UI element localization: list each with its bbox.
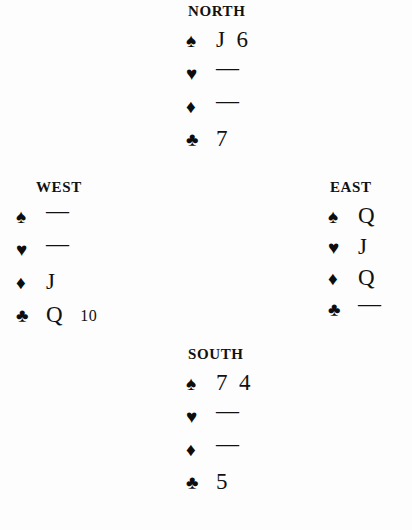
club-icon: ♣ — [328, 300, 358, 319]
heart-icon: ♥ — [16, 240, 46, 259]
ranks-south-diamonds: — — [216, 437, 240, 460]
diamond-icon: ♦ — [16, 273, 46, 292]
ranks-north-clubs: 7 — [216, 127, 228, 150]
card-rank: J — [358, 235, 367, 258]
ranks-south-clubs: 5 — [216, 470, 228, 493]
card-rank: 6 — [236, 28, 248, 51]
ranks-north-diamonds: — — [216, 94, 240, 117]
hand-south: SOUTH ♠ 74 ♥ — ♦ — ♣ 5 — [186, 347, 251, 503]
club-icon: ♣ — [186, 473, 216, 492]
void-marker: — — [216, 399, 240, 422]
suit-row-south-clubs: ♣ 5 — [186, 470, 251, 503]
ranks-north-hearts: — — [216, 61, 240, 84]
suit-row-west-clubs: ♣ Q10 — [16, 303, 97, 336]
hand-label-east: EAST — [330, 180, 382, 195]
card-rank: Q — [46, 303, 63, 326]
diamond-icon: ♦ — [328, 269, 358, 288]
void-marker: — — [358, 292, 382, 315]
heart-icon: ♥ — [186, 64, 216, 83]
hand-north: NORTH ♠ J6 ♥ — ♦ — ♣ 7 — [186, 4, 248, 160]
card-rank: 5 — [216, 470, 228, 493]
suit-row-north-diamonds: ♦ — — [186, 94, 248, 127]
club-icon: ♣ — [16, 306, 46, 325]
suit-row-west-hearts: ♥ — — [16, 237, 97, 270]
card-rank: Q — [358, 266, 375, 289]
ranks-west-spades: — — [46, 204, 70, 227]
ranks-north-spades: J6 — [216, 28, 248, 51]
bridge-hand-diagram: NORTH ♠ J6 ♥ — ♦ — ♣ 7 WEST — [0, 0, 412, 530]
ranks-east-hearts: J — [358, 235, 367, 258]
ranks-south-spades: 74 — [216, 371, 251, 394]
void-marker: — — [46, 199, 70, 222]
diamond-icon: ♦ — [186, 440, 216, 459]
suit-row-south-diamonds: ♦ — — [186, 437, 251, 470]
suit-row-north-clubs: ♣ 7 — [186, 127, 248, 160]
ranks-south-hearts: — — [216, 404, 240, 427]
ranks-west-diamonds: J — [46, 270, 55, 293]
void-marker: — — [216, 432, 240, 455]
hand-label-west: WEST — [36, 180, 97, 195]
card-rank: J — [216, 28, 225, 51]
diamond-icon: ♦ — [186, 97, 216, 116]
card-rank: 7 — [216, 127, 228, 150]
hand-label-north: NORTH — [188, 4, 248, 19]
ranks-east-clubs: — — [358, 297, 382, 320]
card-rank: J — [46, 270, 55, 293]
card-rank: Q — [358, 204, 375, 227]
club-icon: ♣ — [186, 130, 216, 149]
hand-east: EAST ♠ Q ♥ J ♦ Q ♣ — — [328, 180, 382, 328]
hand-west: WEST ♠ — ♥ — ♦ J ♣ Q10 — [16, 180, 97, 336]
suit-row-east-clubs: ♣ — — [328, 297, 382, 328]
hand-label-south: SOUTH — [188, 347, 251, 362]
suit-row-east-hearts: ♥ J — [328, 235, 382, 266]
void-marker: — — [216, 89, 240, 112]
card-rank: 7 — [216, 371, 228, 394]
ranks-east-diamonds: Q — [358, 266, 375, 289]
void-marker: — — [216, 56, 240, 79]
spade-icon: ♠ — [186, 374, 216, 393]
heart-icon: ♥ — [186, 407, 216, 426]
suit-row-east-spades: ♠ Q — [328, 204, 382, 235]
card-rank: 4 — [239, 371, 251, 394]
spade-icon: ♠ — [328, 207, 358, 226]
ranks-east-spades: Q — [358, 204, 375, 227]
heart-icon: ♥ — [328, 238, 358, 257]
spade-icon: ♠ — [186, 31, 216, 50]
suit-row-west-diamonds: ♦ J — [16, 270, 97, 303]
ranks-west-hearts: — — [46, 237, 70, 260]
void-marker: — — [46, 232, 70, 255]
spade-icon: ♠ — [16, 207, 46, 226]
ranks-west-clubs: Q10 — [46, 303, 97, 326]
card-rank: 10 — [80, 308, 97, 324]
